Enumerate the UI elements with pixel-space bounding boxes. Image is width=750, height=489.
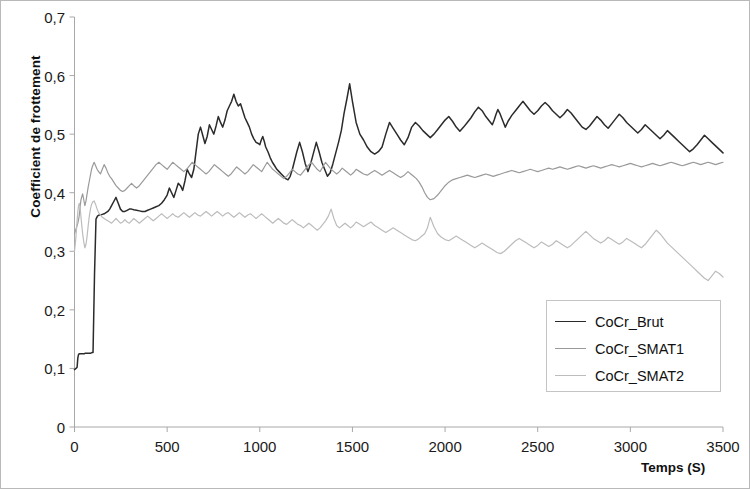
x-tick-label: 0 (70, 438, 78, 455)
legend-label: CoCr_SMAT2 (595, 368, 684, 384)
plot-area (1, 1, 750, 489)
x-tick-label: 3500 (706, 438, 739, 455)
legend-line-swatch (555, 321, 586, 322)
series-line-cocr-smat1 (75, 162, 724, 233)
chart-legend: CoCr_BrutCoCr_SMAT1CoCr_SMAT2 (546, 300, 721, 392)
x-tick-label: 1000 (243, 438, 276, 455)
chart-page: Coefficient de frottement 00,10,20,30,40… (0, 0, 750, 489)
legend-item[interactable]: CoCr_SMAT1 (555, 335, 720, 362)
x-axis-tick-labels: 0500100015002000250030003500 (1, 438, 750, 462)
series-line-cocr-smat2 (75, 201, 724, 281)
legend-label: CoCr_Brut (595, 314, 664, 330)
x-tick-label: 2500 (521, 438, 554, 455)
x-tick-label: 1500 (336, 438, 369, 455)
legend-line-swatch (555, 348, 586, 349)
legend-item[interactable]: CoCr_SMAT2 (555, 362, 720, 389)
legend-item[interactable]: CoCr_Brut (555, 308, 720, 335)
x-tick-label: 2000 (428, 438, 461, 455)
x-tick-label: 3000 (614, 438, 647, 455)
legend-line-swatch (555, 375, 586, 376)
x-axis-title: Temps (S) (641, 460, 705, 475)
legend-label: CoCr_SMAT1 (595, 341, 684, 357)
x-tick-label: 500 (155, 438, 180, 455)
